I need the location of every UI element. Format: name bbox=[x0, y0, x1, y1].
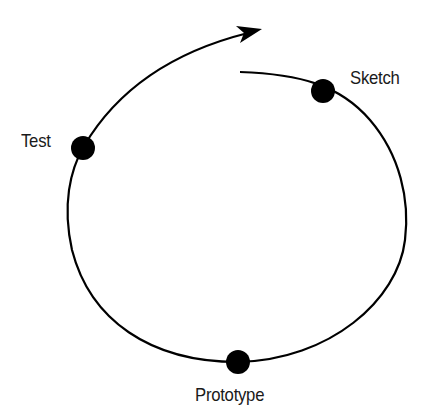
test-node bbox=[71, 136, 95, 160]
cycle-diagram bbox=[0, 0, 426, 417]
prototype-label: Prototype bbox=[195, 384, 264, 406]
test-label: Test bbox=[21, 130, 51, 152]
sketch-node bbox=[311, 79, 335, 103]
sketch-label: Sketch bbox=[350, 67, 400, 89]
prototype-node bbox=[226, 350, 250, 374]
